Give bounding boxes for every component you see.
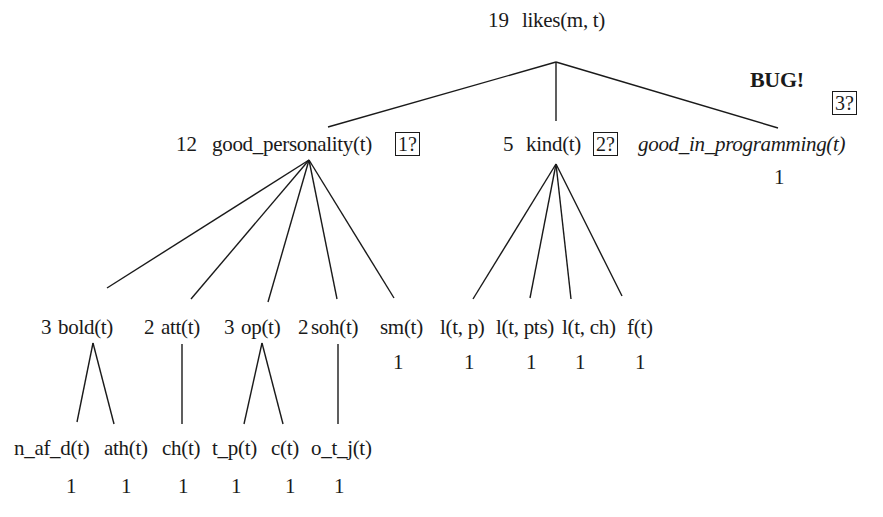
soh-label: soh(t) xyxy=(311,315,358,339)
kind-label: kind(t) xyxy=(526,132,581,156)
good-personality-label: good_personality(t) xyxy=(212,132,372,156)
nafd-weight: 1 xyxy=(66,474,77,498)
edge-kind-ltch xyxy=(556,164,571,299)
c-weight: 1 xyxy=(285,474,296,498)
edge-gp-soh xyxy=(309,160,337,299)
bold-weight: 3 xyxy=(41,315,52,339)
op-label: op(t) xyxy=(241,315,280,339)
ltch-weight: 1 xyxy=(575,350,586,374)
kind-weight: 5 xyxy=(503,132,514,156)
nafd-label: n_af_d(t) xyxy=(14,436,89,460)
ch-weight: 1 xyxy=(178,474,189,498)
good-personality-weight: 12 xyxy=(176,132,197,156)
ltch-label: l(t, ch) xyxy=(562,315,616,339)
soh-weight: 2 xyxy=(298,315,309,339)
bug-flag: BUG! xyxy=(750,68,804,92)
ltp-weight: 1 xyxy=(464,350,475,374)
ath-label: ath(t) xyxy=(104,436,148,460)
ltp-label: l(t, p) xyxy=(440,315,485,339)
otj-label: o_t_j(t) xyxy=(311,436,372,460)
sm-label: sm(t) xyxy=(380,315,423,339)
edge-gp-sm xyxy=(309,160,394,298)
c-label: c(t) xyxy=(271,436,299,460)
otj-weight: 1 xyxy=(334,474,345,498)
ath-weight: 1 xyxy=(121,474,132,498)
edge-kind-f xyxy=(556,164,622,296)
edge-op-tp xyxy=(244,343,262,424)
edge-bold-nafd xyxy=(77,343,93,422)
edge-root-good-in-programming xyxy=(556,62,778,128)
att-weight: 2 xyxy=(144,315,155,339)
ch-label: ch(t) xyxy=(162,436,200,460)
marker-3-box: 3? xyxy=(832,91,857,115)
edge-op-c xyxy=(262,343,283,424)
att-label: att(t) xyxy=(161,315,200,339)
marker-2-box: 2? xyxy=(593,132,618,156)
ltpts-label: l(t, pts) xyxy=(496,315,554,339)
edge-bold-ath xyxy=(93,343,114,424)
bold-label: bold(t) xyxy=(58,315,113,339)
good-in-programming-label: good_in_programming(t) xyxy=(638,132,845,156)
ltpts-weight: 1 xyxy=(526,350,537,374)
f-weight: 1 xyxy=(635,350,646,374)
edge-root-good-personality xyxy=(328,62,556,127)
edge-gp-att xyxy=(191,160,309,299)
tp-label: t_p(t) xyxy=(212,436,257,460)
sm-weight: 1 xyxy=(393,350,404,374)
tp-weight: 1 xyxy=(231,474,242,498)
op-weight: 3 xyxy=(224,315,235,339)
marker-1-box: 1? xyxy=(395,132,420,156)
root-weight: 19 xyxy=(488,8,509,32)
good-in-programming-weight: 1 xyxy=(774,165,785,189)
root-label: likes(m, t) xyxy=(522,8,605,32)
edge-gp-bold xyxy=(107,160,309,288)
f-label: f(t) xyxy=(627,315,653,339)
